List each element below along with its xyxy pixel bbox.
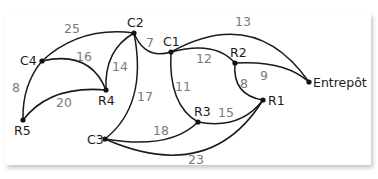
weight-label-c2-c1: 7: [146, 35, 154, 50]
node-label-r4: R4: [98, 93, 115, 108]
weight-label-c4-c2: 25: [64, 21, 80, 36]
weight-label-c1-r3: 11: [175, 79, 191, 94]
weight-label-c3-r1: 23: [188, 152, 204, 167]
weight-label-c1-entrepot: 13: [235, 14, 251, 29]
node-dot-c4: [39, 58, 44, 63]
graph-diagram: C2 C1 C4 R2 R4 R5 R3 R1 C3 Entrepôt 25 1…: [0, 0, 378, 179]
edge-c4-r4: [42, 59, 106, 90]
edge-r2-r1: [235, 63, 263, 100]
node-label-entrepot: Entrepôt: [313, 75, 367, 90]
weight-label-r2-r1: 8: [240, 76, 248, 91]
weight-label-r5-r4: 20: [56, 95, 72, 110]
node-dot-r1: [260, 97, 265, 102]
node-label-r2: R2: [230, 45, 247, 60]
node-label-c3: C3: [87, 132, 104, 147]
node-dot-c1: [168, 49, 173, 54]
weight-label-c4-r5: 8: [12, 80, 20, 95]
weight-label-c2-c3: 17: [137, 89, 153, 104]
node-label-c4: C4: [20, 53, 37, 68]
edge-c2-c3: [105, 33, 137, 139]
node-label-r5: R5: [14, 123, 31, 138]
weight-label-c4-r4: 16: [76, 49, 92, 64]
node-dot-r4: [103, 87, 108, 92]
weight-label-c3-r3: 18: [153, 123, 169, 138]
node-label-c1: C1: [163, 34, 180, 49]
node-dot-r5: [20, 117, 25, 122]
node-label-r1: R1: [268, 93, 285, 108]
node-dot-r2: [232, 60, 237, 65]
node-dot-entrepot: [306, 79, 311, 84]
node-dot-c2: [131, 30, 136, 35]
node-label-r3: R3: [194, 104, 211, 119]
weight-label-c1-r2: 12: [196, 51, 212, 66]
edge-c4-r5: [23, 61, 42, 120]
weight-label-r2-entrepot: 9: [260, 68, 268, 83]
weight-label-r4-c2: 14: [112, 59, 128, 74]
node-dot-r3: [195, 119, 200, 124]
node-label-c2: C2: [127, 15, 144, 30]
weight-label-r3-r1: 15: [218, 105, 234, 120]
